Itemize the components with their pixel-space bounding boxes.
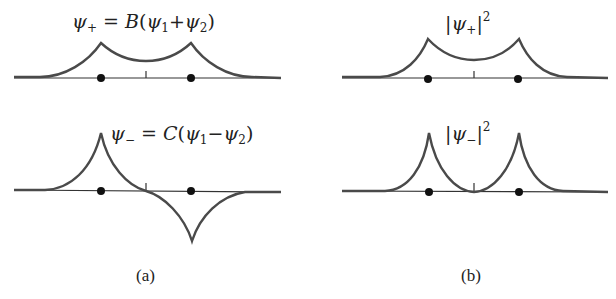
caption-b: (b): [461, 266, 481, 286]
psi-symbol: ψ: [146, 10, 161, 32]
equals-sign: =: [141, 122, 157, 144]
psi-symbol: ψ: [110, 122, 125, 144]
coefficient: C: [163, 122, 178, 144]
paren-close: ): [246, 122, 253, 144]
wavefunction-diagram: [0, 0, 616, 299]
subscript: +: [87, 21, 97, 35]
psi-symbol: ψ: [185, 10, 200, 32]
psi-plus-curve: [14, 43, 281, 78]
operator: −: [208, 122, 224, 144]
paren-open: (: [178, 122, 185, 144]
subscript: −: [466, 133, 476, 147]
panel-a-top: [14, 43, 281, 82]
panel-b-top: [342, 39, 608, 83]
nucleus-dot-2: [514, 75, 522, 83]
subscript: 2: [238, 133, 246, 147]
psi-symbol: ψ: [451, 122, 466, 144]
nucleus-dot-1: [97, 187, 105, 195]
equation-psi-minus: ψ− = C(ψ1−ψ2): [110, 122, 253, 147]
panel-a-bottom: [14, 133, 281, 241]
nucleus-dot-1: [424, 75, 432, 83]
paren-close: ): [207, 10, 214, 32]
psi-plus-squared-curve: [342, 39, 608, 78]
psi-symbol: ψ: [451, 12, 466, 34]
subscript: +: [466, 23, 476, 37]
nucleus-dot-1: [97, 74, 105, 82]
nucleus-dot-1: [425, 188, 433, 196]
psi-symbol: ψ: [72, 10, 87, 32]
equation-psi-plus: ψ+ = B(ψ1+ψ2): [72, 10, 215, 35]
superscript: 2: [483, 120, 491, 134]
psi-minus-curve: [14, 133, 281, 241]
equation-psi-minus-squared: |ψ−|2: [445, 120, 490, 147]
caption-a: (a): [136, 266, 155, 286]
coefficient: B: [125, 10, 139, 32]
nucleus-dot-2: [187, 187, 195, 195]
subscript: 1: [200, 133, 208, 147]
operator: +: [169, 10, 185, 32]
nucleus-dot-2: [187, 74, 195, 82]
subscript: −: [125, 133, 135, 147]
subscript: 1: [161, 21, 169, 35]
psi-symbol: ψ: [185, 122, 200, 144]
psi-symbol: ψ: [223, 122, 238, 144]
equals-sign: =: [103, 10, 119, 32]
nucleus-dot-2: [515, 188, 523, 196]
equation-psi-plus-squared: |ψ+|2: [445, 10, 490, 37]
superscript: 2: [483, 10, 491, 24]
